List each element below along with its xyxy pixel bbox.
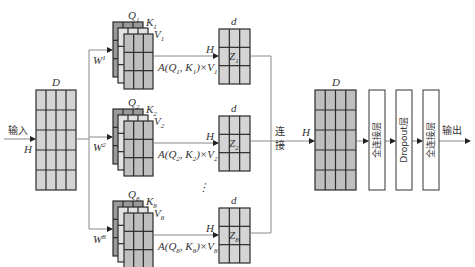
concat-label-2: 接 — [275, 139, 285, 151]
output-label: 输出 — [442, 124, 462, 136]
ellipsis: ⋮ — [198, 181, 209, 193]
formula-1: A(Q1, K1)×V1 — [157, 61, 217, 76]
split-arrow-1 — [89, 50, 112, 229]
v-matrix-1 — [124, 34, 153, 89]
z-dim-h-8: H — [205, 222, 215, 234]
input-dim-d: D — [51, 76, 60, 88]
z-dim-d-1: d — [231, 15, 237, 27]
v-matrix-8 — [124, 213, 153, 267]
split-lines — [76, 50, 112, 229]
layer-label-2: 全连接层 — [425, 122, 436, 158]
concat-matrix — [315, 90, 356, 190]
v-label-1: V1 — [154, 28, 164, 43]
input-section: 输入 D H — [4, 76, 76, 190]
formula-8: A(Q8, K8)×V8 — [157, 240, 218, 255]
z-dim-h-1: H — [205, 43, 215, 55]
input-dim-h: H — [23, 143, 33, 155]
v-label-2: V2 — [154, 115, 165, 130]
concat-lines: 连 接 H D — [250, 56, 356, 233]
head-8: W8Q8K8V8A(Q8, K8)×V8HdZ8 — [93, 188, 250, 267]
concat-grid — [315, 90, 356, 190]
weight-label-8: W8 — [93, 233, 106, 245]
input-label: 输入 — [8, 124, 28, 136]
concat-dim-h: H — [301, 126, 311, 138]
layer-label-1: Dropout层 — [399, 117, 409, 162]
z-dim-h-2: H — [205, 130, 215, 142]
concat-bracket — [250, 56, 271, 233]
z-dim-d-2: d — [231, 102, 237, 114]
weight-label-2: W2 — [93, 141, 106, 153]
v-matrix-1-frame — [124, 34, 153, 89]
layer-1: Dropout层 — [396, 90, 412, 190]
input-grid — [36, 90, 76, 190]
v-matrix-8-frame — [124, 213, 153, 267]
concat-label-1: 连 — [275, 125, 285, 137]
v-label-8: V8 — [154, 207, 165, 222]
head-1: W1Q1K1V1A(Q1, K1)×V1HdZ1 — [93, 9, 250, 89]
formula-2: A(Q2, K2)×V2 — [157, 148, 218, 163]
z-dim-d-8: d — [231, 194, 237, 206]
layer-label-0: 全连接层 — [371, 122, 382, 158]
concat-dim-d: D — [331, 76, 340, 88]
v-matrix-2-frame — [124, 121, 153, 176]
attention-heads: W1Q1K1V1A(Q1, K1)×V1HdZ1W2Q2K2V2A(Q2, K2… — [93, 9, 250, 267]
input-matrix — [36, 90, 76, 190]
v-matrix-2 — [124, 121, 153, 176]
dense-layers: 输出 全连接层Dropout层全连接层 — [356, 90, 470, 190]
head-2: W2Q2K2V2A(Q2, K2)×V2HdZ2 — [93, 96, 250, 176]
weight-label-1: W1 — [93, 54, 106, 66]
layer-0: 全连接层 — [369, 90, 385, 190]
layer-2: 全连接层 — [423, 90, 439, 190]
multi-head-attention-diagram: 输入 D H W1Q1K1V1A(Q1, K1)×V1HdZ1W2Q2K2V2A… — [0, 0, 475, 267]
